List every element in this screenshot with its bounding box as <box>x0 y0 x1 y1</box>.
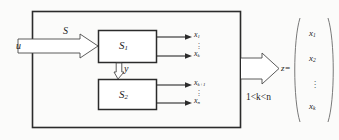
output-equals-sign: = <box>285 63 291 73</box>
vector-entry-x2-subscript: 2 <box>313 57 316 63</box>
s2-output-arrowhead-2 <box>185 100 192 106</box>
condition-label: 1<k<n <box>246 93 271 103</box>
s1-output-arrowhead-1 <box>185 34 192 40</box>
block-s1-subscript: 1 <box>125 44 128 51</box>
input-arrow-s-label: S <box>63 26 68 36</box>
block-s2-label: S2 <box>119 89 128 101</box>
output-block-arrow <box>241 53 279 84</box>
block-s1-label: S1 <box>119 40 128 52</box>
vector-entry-x2: x2 <box>309 54 316 64</box>
vector-entry-x1: x1 <box>309 29 316 39</box>
feedback-arrow <box>114 63 124 79</box>
output-label-xn-subscript: n <box>198 100 200 105</box>
feedback-y-label: y <box>124 64 128 74</box>
vector-left-bracket <box>295 18 300 122</box>
block-s2-subscript: 2 <box>125 93 128 100</box>
s1-output-ellipsis: . . . <box>195 41 203 49</box>
output-label-xn: xn <box>194 97 200 106</box>
vector-entry-x1-subscript: 1 <box>313 32 316 38</box>
output-z-label: z= <box>281 64 291 73</box>
vector-right-bracket <box>328 18 333 122</box>
input-block-arrow <box>18 34 98 58</box>
output-label-xk-subscript: k <box>198 53 200 58</box>
output-label-xk: xk <box>194 50 200 59</box>
diagram-canvas: u S S1 S2 y x1 . . . xk xk+1 . . . xn z= <box>0 0 339 140</box>
s1-output-arrowhead-2 <box>185 53 192 59</box>
vector-ellipsis: . . . <box>310 78 320 88</box>
vector-entry-xk: xk <box>309 102 315 112</box>
input-signal-u-label: u <box>16 41 21 51</box>
s2-output-arrowhead-1 <box>185 82 192 88</box>
s2-output-ellipsis: . . . <box>195 88 203 96</box>
vector-entry-xk-subscript: k <box>313 105 315 111</box>
